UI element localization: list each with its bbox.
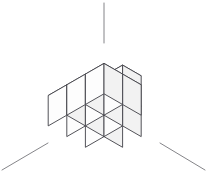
axis-left-x: [2, 143, 48, 170]
cubes-group: [48, 63, 141, 147]
cube-bottom-left-front-face-left: [48, 85, 67, 126]
isometric-figure-canvas: [0, 0, 207, 173]
figure-root: Isometric stack of unit cubes on three c…: [0, 0, 207, 173]
axis-right-y: [160, 143, 205, 170]
